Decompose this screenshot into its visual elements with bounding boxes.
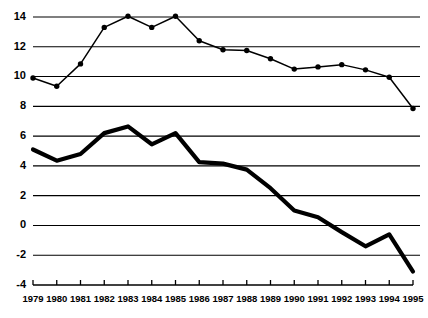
y-axis-tick-label: 0 [20,218,26,230]
data-point-marker [173,14,178,19]
y-axis-tick-label: 10 [14,69,26,81]
x-axis-tick-label: 1979 [22,293,43,304]
x-axis-tick-labels: 1979198019811982198319841985198619871988… [22,293,424,304]
chart-container: 14121086420-2-4 197919801981198219831984… [0,0,428,318]
gridlines [33,17,420,255]
y-axis-tick-label: 14 [14,10,27,22]
data-point-marker [102,25,107,30]
data-point-marker [410,106,415,111]
x-axis-tick-label: 1991 [307,293,329,304]
x-axis-tick-label: 1994 [379,293,401,304]
data-point-marker [339,62,344,67]
data-point-marker [149,25,154,30]
x-axis-tick-label: 1989 [260,293,281,304]
y-axis-tick-label: 6 [20,129,26,141]
x-axis-tick-label: 1984 [141,293,163,304]
x-axis-tick-label: 1995 [402,293,424,304]
y-axis-tick-label: 4 [20,159,27,171]
data-point-marker [220,47,225,52]
data-point-marker [197,38,202,43]
data-point-marker [54,84,59,89]
y-axis-tick-label: -2 [16,248,26,260]
series-line-upper-series [33,16,413,108]
data-series [30,14,415,272]
y-axis-tick-labels: 14121086420-2-4 [14,10,27,290]
data-point-marker [244,48,249,53]
data-point-marker [387,75,392,80]
y-axis-tick-label: 12 [14,40,26,52]
data-point-marker [315,64,320,69]
x-axis-tick-label: 1990 [284,293,305,304]
x-axis-tick-label: 1985 [165,293,187,304]
data-point-marker [292,66,297,71]
x-axis-tick-label: 1987 [212,293,233,304]
y-axis-tick-label: 2 [20,189,26,201]
series-line-lower-series [33,126,413,271]
x-axis-tick-label: 1980 [46,293,67,304]
data-point-marker [30,75,35,80]
data-point-marker [125,14,130,19]
data-point-marker [268,56,273,61]
data-point-marker [363,67,368,72]
x-axis-tick-label: 1983 [117,293,138,304]
x-axis-tick-label: 1981 [70,293,92,304]
x-axis-tick-label: 1986 [189,293,210,304]
x-axis-tick-label: 1992 [331,293,352,304]
x-axis-tick-label: 1982 [94,293,115,304]
x-axis-tick-label: 1993 [355,293,376,304]
y-axis-tick-label: -4 [16,278,27,290]
y-axis-tick-label: 8 [20,99,26,111]
line-chart: 14121086420-2-4 197919801981198219831984… [0,0,428,318]
data-point-marker [78,61,83,66]
x-axis-tick-label: 1988 [236,293,257,304]
